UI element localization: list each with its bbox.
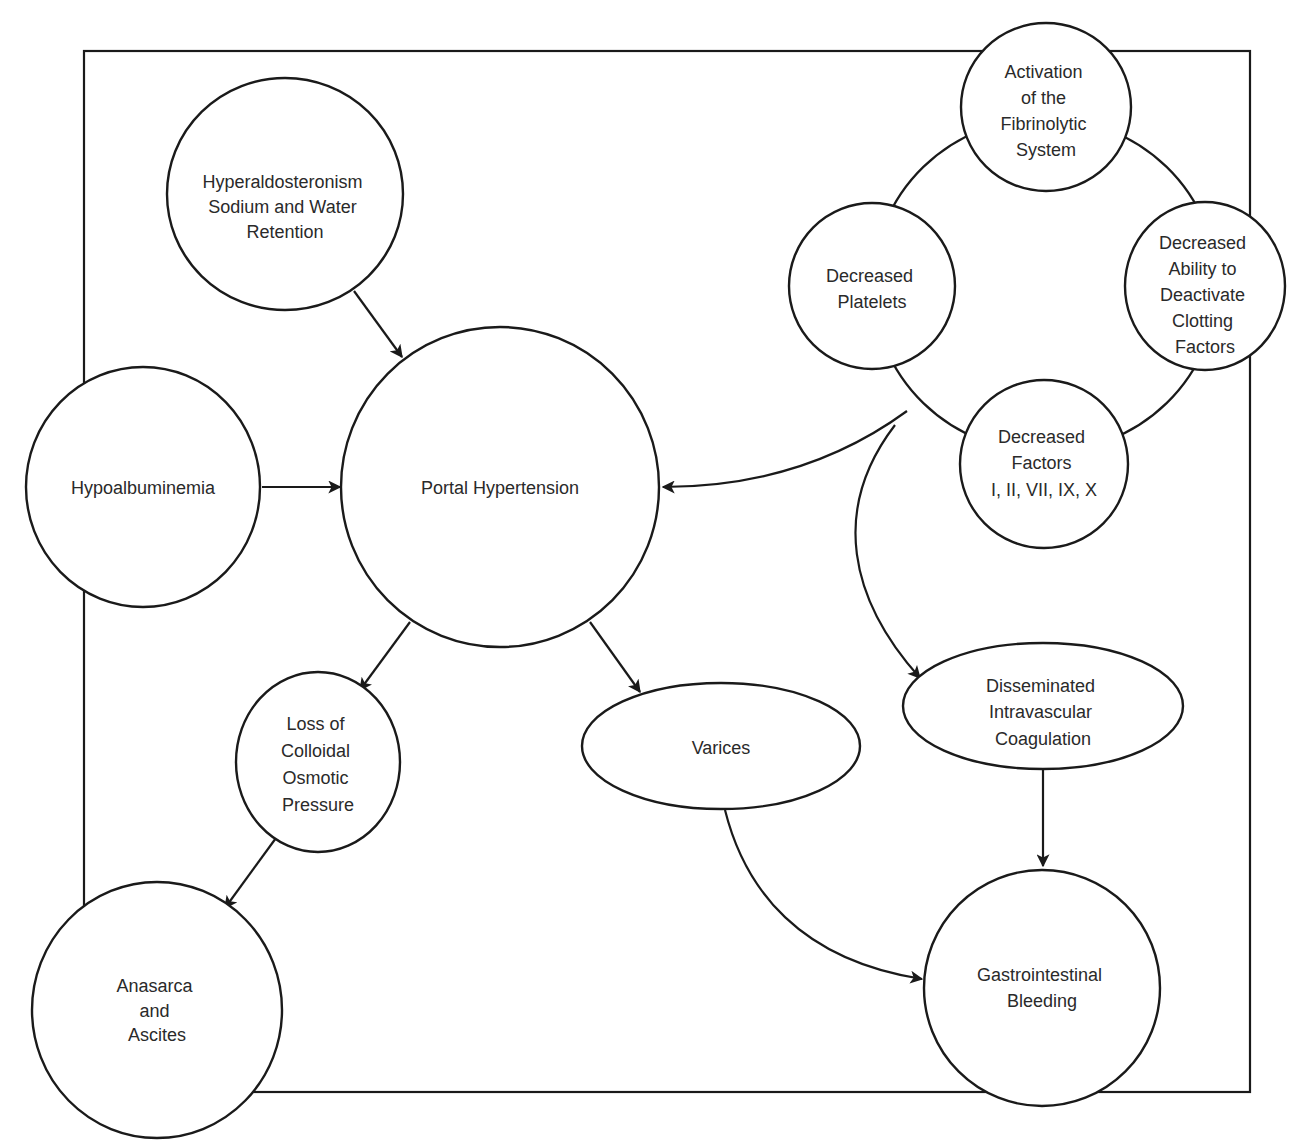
svg-text:Varices: Varices	[692, 738, 751, 758]
edge-cluster-to-dic	[855, 425, 920, 678]
edges	[225, 291, 1043, 979]
svg-text:Hypoalbuminemia: Hypoalbuminemia	[71, 478, 216, 498]
node-label-line: Portal Hypertension	[421, 478, 579, 498]
edge-portal-to-loss	[360, 622, 410, 690]
node-label-line: Decreased	[998, 427, 1085, 447]
node-label-line: Varices	[692, 738, 751, 758]
node-label-line: Coagulation	[995, 729, 1091, 749]
node-gastrointestinal-bleeding: Gastrointestinal Bleeding	[924, 870, 1160, 1106]
node-label-line: I, II, VII, IX, X	[991, 480, 1097, 500]
svg-text:Portal Hypertension: Portal Hypertension	[421, 478, 579, 498]
node-label-line: Hyperaldosteronism	[202, 172, 362, 192]
node-label-line: Intravascular	[989, 702, 1092, 722]
node-label-line: Loss of	[286, 714, 345, 734]
node-decreased-platelets: Decreased Platelets	[789, 203, 955, 369]
node-disseminated-intravascular-coagulation: Disseminated Intravascular Coagulation	[903, 643, 1183, 769]
node-label-line: Osmotic	[282, 768, 348, 788]
node-label-line: Sodium and Water	[208, 197, 356, 217]
node-activation-fibrinolytic-system: Activation of the Fibrinolytic System	[961, 23, 1131, 191]
node-decreased-ability-deactivate-clotting-factors: Decreased Ability to Deactivate Clotting…	[1125, 202, 1285, 370]
edge-varices-to-gi	[725, 810, 922, 979]
node-anasarca-ascites: Anasarca and Ascites	[32, 882, 282, 1138]
node-label-line: Decreased	[826, 266, 913, 286]
node-hyperaldosteronism: Hyperaldosteronism Sodium and Water Rete…	[167, 78, 403, 310]
node-label-line: Activation	[1004, 62, 1082, 82]
node-label-line: Bleeding	[1007, 991, 1077, 1011]
node-label-line: Gastrointestinal	[977, 965, 1102, 985]
node-label-line: of the	[1021, 88, 1066, 108]
concept-map: Hyperaldosteronism Sodium and Water Rete…	[0, 0, 1298, 1140]
edge-cluster-to-portal	[663, 411, 907, 487]
node-decreased-factors: Decreased Factors I, II, VII, IX, X	[960, 380, 1128, 548]
node-varices: Varices	[582, 683, 860, 809]
node-label-line: Deactivate	[1160, 285, 1245, 305]
node-label-line: Anasarca	[116, 976, 193, 996]
node-label-line: Disseminated	[986, 676, 1095, 696]
svg-text:Disseminated Intravascul: Disseminated Intravascular Coagulation	[986, 676, 1100, 749]
node-label-line: Decreased	[1159, 233, 1246, 253]
node-loss-colloidal-osmotic-pressure: Loss of Colloidal Osmotic Pressure	[236, 672, 400, 852]
node-label-line: Clotting	[1172, 311, 1233, 331]
node-label-line: Ability to	[1168, 259, 1236, 279]
node-label-line: and	[139, 1001, 169, 1021]
node-label-line: Ascites	[128, 1025, 186, 1045]
node-label-line: Retention	[246, 222, 323, 242]
node-label-line: Colloidal	[281, 741, 350, 761]
node-label-line: Platelets	[837, 292, 906, 312]
node-label-line: Factors	[1011, 453, 1071, 473]
node-label-line: Hypoalbuminemia	[71, 478, 216, 498]
node-label-line: Pressure	[282, 795, 354, 815]
edge-hyperaldosteronism-to-portal	[354, 291, 402, 357]
edge-portal-to-varices	[590, 622, 640, 692]
node-hypoalbuminemia: Hypoalbuminemia	[26, 367, 260, 607]
node-label-line: System	[1016, 140, 1076, 160]
edge-loss-to-anasarca	[225, 838, 276, 908]
node-portal-hypertension: Portal Hypertension	[341, 327, 659, 647]
node-label-line: Factors	[1175, 337, 1235, 357]
node-label-line: Fibrinolytic	[1000, 114, 1086, 134]
